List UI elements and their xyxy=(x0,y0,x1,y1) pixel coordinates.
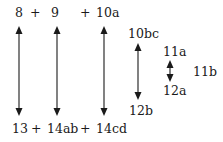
arrows-layer xyxy=(0,0,223,142)
double-arrow-11a-12a-icon xyxy=(167,60,174,82)
double-arrow-8-13-icon xyxy=(16,26,23,116)
double-arrow-10a-14cd-icon xyxy=(101,26,108,116)
double-arrow-10bc-12b-icon xyxy=(135,43,142,100)
double-arrow-9-14ab-icon xyxy=(54,26,61,116)
